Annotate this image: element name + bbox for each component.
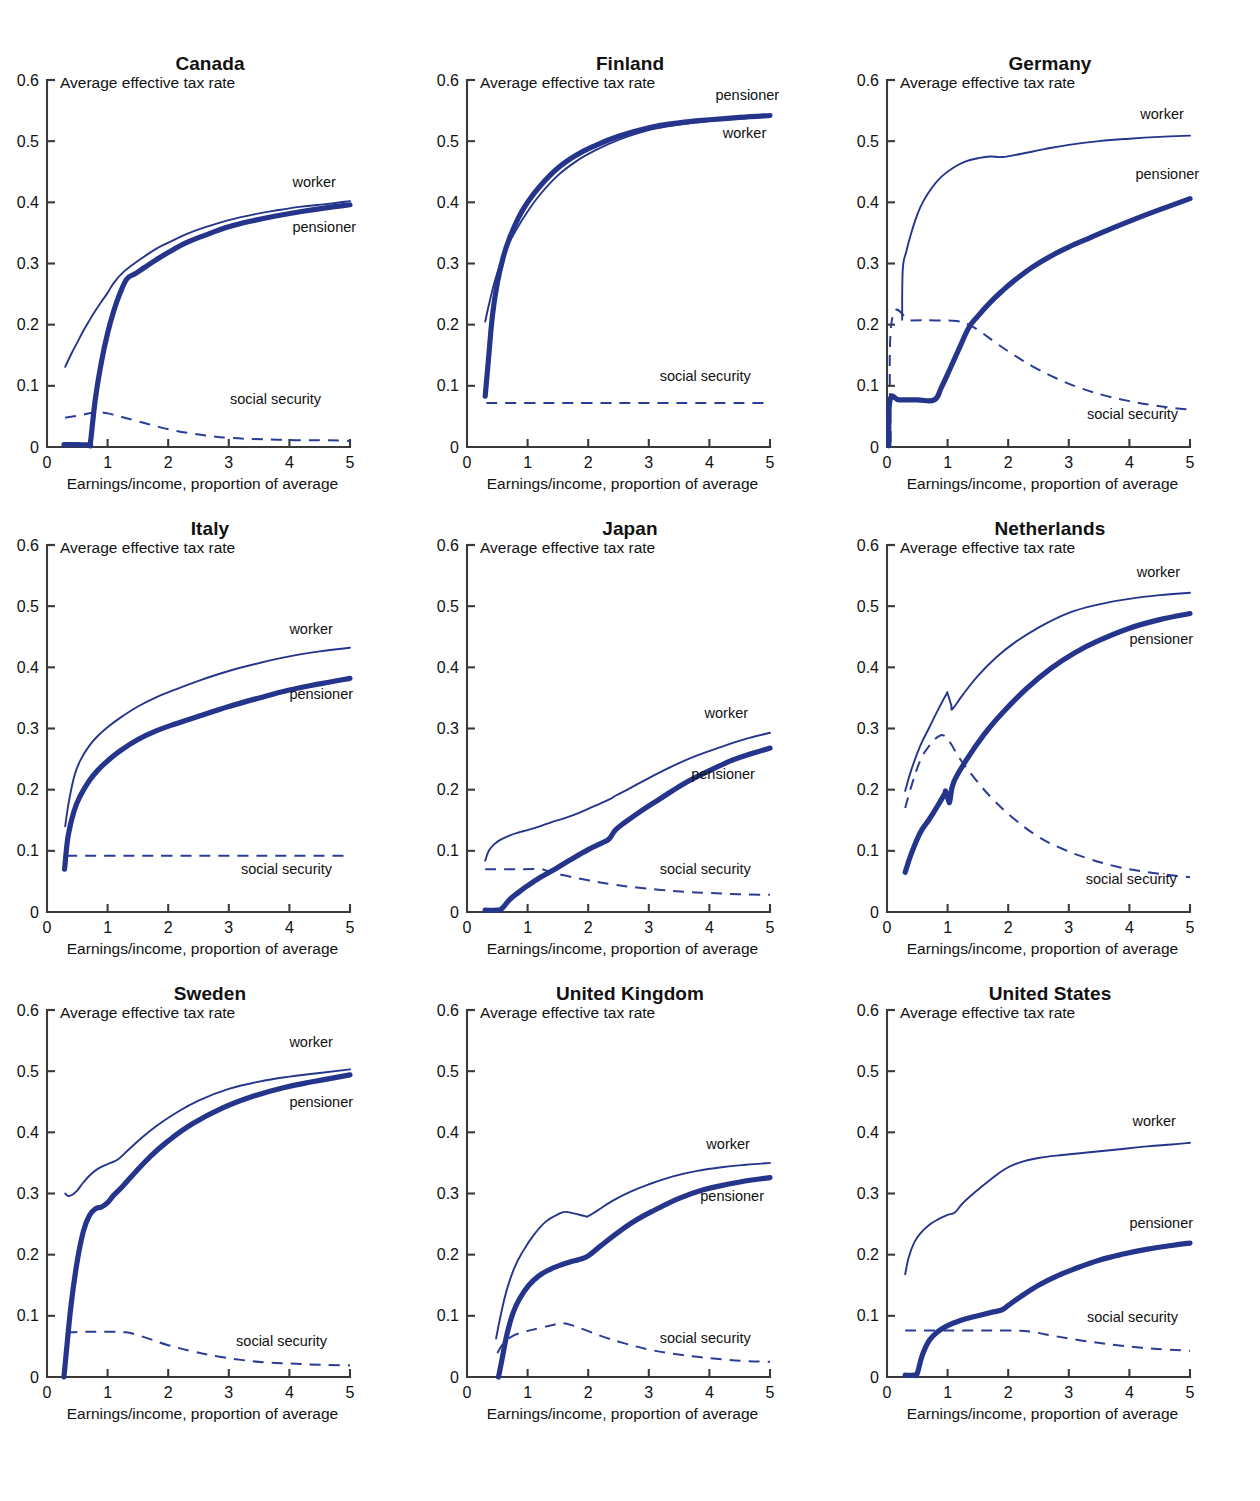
x-tick-label: 2	[584, 1384, 593, 1401]
y-tick-label: 0.1	[17, 842, 39, 859]
x-axis-caption: Earnings/income, proportion of average	[487, 940, 758, 957]
x-tick-label: 2	[164, 1384, 173, 1401]
y-tick-label: 0.6	[17, 537, 39, 554]
y-tick-label: 0	[870, 1369, 879, 1386]
series-label-pensioner: pensioner	[292, 219, 356, 235]
y-tick-label: 0	[870, 439, 879, 456]
y-tick-label: 0.1	[437, 842, 459, 859]
series-label-pensioner: pensioner	[691, 766, 755, 782]
x-tick-label: 4	[285, 454, 294, 471]
pensioner-line	[499, 1178, 770, 1377]
pensioner-line	[64, 205, 350, 446]
chart-panel: Germany 00.10.20.30.40.50.6012345Average…	[840, 45, 1260, 510]
x-tick-label: 4	[1125, 919, 1134, 936]
y-tick-label: 0.2	[17, 316, 39, 333]
y-tick-label: 0.4	[17, 1124, 39, 1141]
x-tick-label: 5	[346, 919, 355, 936]
y-axis-caption: Average effective tax rate	[900, 1004, 1075, 1021]
y-tick-label: 0	[30, 1369, 39, 1386]
y-tick-label: 0.3	[437, 255, 459, 272]
x-tick-label: 4	[1125, 1384, 1134, 1401]
y-tick-label: 0	[450, 439, 459, 456]
series-label-worker: worker	[1139, 106, 1184, 122]
y-tick-label: 0	[30, 904, 39, 921]
series-label-worker: worker	[288, 621, 333, 637]
x-tick-label: 5	[766, 919, 775, 936]
chart-panel: United Kingdom 00.10.20.30.40.50.6012345…	[420, 975, 840, 1440]
chart-panel: Netherlands 00.10.20.30.40.50.6012345Ave…	[840, 510, 1260, 975]
series-label-social-security: social security	[1086, 871, 1178, 887]
y-tick-label: 0.5	[437, 1063, 459, 1080]
y-tick-label: 0.4	[17, 194, 39, 211]
x-tick-label: 5	[1186, 1384, 1195, 1401]
y-tick-label: 0.2	[857, 316, 879, 333]
y-tick-label: 0.2	[857, 781, 879, 798]
x-tick-label: 1	[103, 1384, 112, 1401]
x-axis-caption: Earnings/income, proportion of average	[67, 940, 338, 957]
axis-spine	[467, 545, 770, 912]
chart-panel: Sweden 00.10.20.30.40.50.6012345Average …	[0, 975, 420, 1440]
plot-area: 00.10.20.30.40.50.6012345Average effecti…	[840, 45, 1260, 510]
y-tick-label: 0.5	[17, 1063, 39, 1080]
x-tick-label: 3	[644, 454, 653, 471]
y-tick-label: 0.6	[857, 1002, 879, 1019]
y-tick-label: 0.3	[17, 255, 39, 272]
y-axis-caption: Average effective tax rate	[480, 539, 655, 556]
x-tick-label: 3	[1064, 454, 1073, 471]
y-tick-label: 0.2	[857, 1246, 879, 1263]
series-label-social-security: social security	[241, 861, 333, 877]
x-tick-label: 3	[224, 919, 233, 936]
y-tick-label: 0.6	[437, 1002, 459, 1019]
pensioner-line	[905, 614, 1190, 873]
worker-line	[65, 648, 350, 827]
chart-panel: United States 00.10.20.30.40.50.6012345A…	[840, 975, 1260, 1440]
x-tick-label: 5	[766, 1384, 775, 1401]
axis-spine	[47, 1010, 350, 1377]
y-tick-label: 0.6	[17, 72, 39, 89]
y-tick-label: 0.2	[17, 781, 39, 798]
plot-area: 00.10.20.30.40.50.6012345Average effecti…	[420, 510, 840, 975]
x-tick-label: 2	[164, 919, 173, 936]
x-axis-caption: Earnings/income, proportion of average	[67, 1405, 338, 1422]
y-tick-label: 0.6	[17, 1002, 39, 1019]
series-label-pensioner: pensioner	[1135, 166, 1199, 182]
x-tick-label: 0	[883, 919, 892, 936]
series-label-worker: worker	[1131, 1113, 1176, 1129]
x-tick-label: 1	[943, 1384, 952, 1401]
y-axis-caption: Average effective tax rate	[900, 539, 1075, 556]
y-tick-label: 0.2	[437, 1246, 459, 1263]
series-label-social-security: social security	[660, 368, 752, 384]
x-tick-label: 0	[463, 919, 472, 936]
bottom-spacer	[0, 1440, 1260, 1501]
series-label-social-security: social security	[1087, 406, 1179, 422]
x-tick-label: 4	[1125, 454, 1134, 471]
y-tick-label: 0.4	[437, 659, 459, 676]
series-label-pensioner: pensioner	[289, 1094, 353, 1110]
series-label-worker: worker	[704, 705, 749, 721]
x-axis-caption: Earnings/income, proportion of average	[487, 1405, 758, 1422]
x-tick-label: 2	[1004, 1384, 1013, 1401]
chart-panel: Canada 00.10.20.30.40.50.6012345Average …	[0, 45, 420, 510]
x-axis-caption: Earnings/income, proportion of average	[907, 1405, 1178, 1422]
axis-spine	[47, 545, 350, 912]
plot-area: 00.10.20.30.40.50.6012345Average effecti…	[0, 45, 420, 510]
y-tick-label: 0.4	[857, 194, 879, 211]
y-tick-label: 0.1	[857, 377, 879, 394]
y-tick-label: 0	[450, 1369, 459, 1386]
y-tick-label: 0.4	[857, 659, 879, 676]
y-tick-label: 0.3	[17, 720, 39, 737]
x-tick-label: 1	[523, 454, 532, 471]
y-tick-label: 0.4	[17, 659, 39, 676]
x-axis-caption: Earnings/income, proportion of average	[67, 475, 338, 492]
series-label-worker: worker	[722, 125, 767, 141]
y-tick-label: 0.1	[857, 842, 879, 859]
y-tick-label: 0.3	[437, 1185, 459, 1202]
y-tick-label: 0.1	[17, 377, 39, 394]
plot-area: 00.10.20.30.40.50.6012345Average effecti…	[0, 510, 420, 975]
worker-line	[905, 1143, 1190, 1275]
series-label-social-security: social security	[236, 1333, 328, 1349]
series-label-social-security: social security	[660, 1330, 752, 1346]
series-label-worker: worker	[291, 174, 336, 190]
pensioner-line	[65, 678, 350, 869]
x-tick-label: 4	[705, 454, 714, 471]
